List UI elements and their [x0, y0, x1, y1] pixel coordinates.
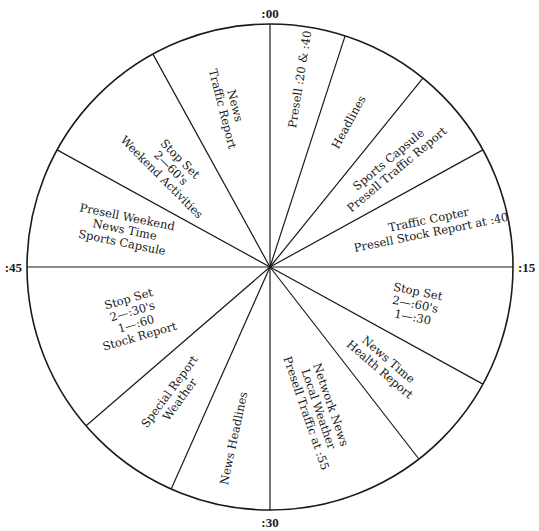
tick-label-15: :15	[518, 260, 536, 275]
tick-label-30: :30	[261, 515, 278, 530]
tick-label-45: :45	[5, 260, 23, 275]
hour-clock-diagram: Presell :20 & :40HeadlinesSports Capsule…	[0, 0, 539, 531]
tick-label-00: :00	[261, 6, 278, 21]
